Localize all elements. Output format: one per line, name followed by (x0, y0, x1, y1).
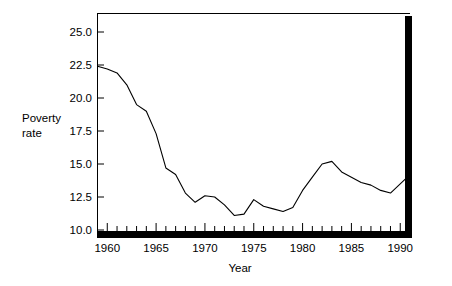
y-axis-title-line1: Poverty (22, 112, 61, 124)
y-axis-title-line2: rate (22, 127, 42, 139)
y-tick-label: 15.0 (70, 158, 92, 170)
chart-canvas: 10.012.515.017.520.022.525.0 19601965197… (0, 0, 452, 286)
y-tick-label: 20.0 (70, 92, 92, 104)
chart-background (0, 0, 452, 286)
x-tick-label: 1970 (192, 242, 218, 254)
y-tick-label: 22.5 (70, 59, 92, 71)
x-tick-label: 1980 (290, 242, 316, 254)
x-tick-label: 1975 (241, 242, 267, 254)
y-tick-label: 12.5 (70, 191, 92, 203)
x-tick-label: 1985 (339, 242, 365, 254)
x-tick-label: 1965 (143, 242, 169, 254)
x-tick-label: 1990 (387, 242, 413, 254)
x-axis-bar (97, 231, 412, 238)
y-tick-label: 10.0 (70, 224, 92, 236)
y-tick-label: 17.5 (70, 125, 92, 137)
poverty-rate-chart-figure: 10.012.515.017.520.022.525.0 19601965197… (0, 0, 452, 286)
x-tick-label: 1960 (94, 242, 120, 254)
right-axis-bar (405, 16, 412, 238)
x-axis-title: Year (228, 262, 251, 274)
y-tick-label: 25.0 (70, 26, 92, 38)
